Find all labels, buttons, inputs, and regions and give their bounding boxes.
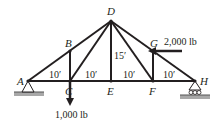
load-g-label: 2,000 lb — [164, 36, 197, 47]
joint-label-b: B — [65, 37, 72, 49]
joint-label-e: E — [106, 85, 114, 97]
dim-fh: 10′ — [163, 69, 175, 80]
ground-right — [180, 95, 210, 99]
dim-de: 15′ — [114, 50, 126, 61]
pin-support-icon — [22, 81, 34, 92]
joint-label-f: F — [148, 85, 156, 97]
dim-ac: 10′ — [49, 69, 61, 80]
load-c-label: 1,000 lb — [55, 109, 88, 120]
joint-label-h: H — [199, 75, 209, 87]
joint-label-a: A — [16, 75, 24, 87]
joint-label-g: G — [150, 37, 158, 49]
ground-left — [14, 92, 44, 96]
dim-ef: 10′ — [123, 69, 135, 80]
joint-label-d: D — [106, 5, 115, 17]
truss-diagram: 1,000 lb 2,000 lb A B C D E F G H 10′ 10… — [0, 0, 221, 128]
dim-ce: 10′ — [85, 69, 97, 80]
joint-label-c: C — [65, 85, 73, 97]
